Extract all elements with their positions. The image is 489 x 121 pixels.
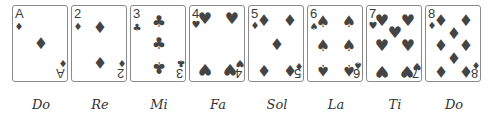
rank-bottom: 6	[353, 67, 360, 80]
spade-icon: ♠	[342, 14, 356, 30]
spade-icon: ♠	[316, 62, 330, 78]
club-icon: ♣	[133, 23, 142, 33]
rank-bottom: 7	[412, 67, 419, 80]
spade-icon: ♠	[342, 38, 356, 54]
spade-icon: ♠	[316, 38, 330, 54]
rank-top: 2	[74, 7, 81, 20]
card-ace-of-diamonds: A ♦ ♦ ♦ A	[12, 5, 68, 82]
card-three-of-clubs: 3 ♣ ♣ ♣ ♣ ♣ 3	[130, 5, 186, 82]
diamond-icon: ♦	[93, 54, 107, 70]
heart-icon: ♥	[401, 13, 415, 29]
diamond-icon: ♦	[34, 36, 48, 52]
diamond-icon: ♦	[283, 13, 297, 29]
rank-bottom: 5	[294, 67, 301, 80]
solfege-label: Fa	[189, 97, 247, 112]
solfege-label: Sol	[248, 97, 306, 112]
card-two-of-diamonds: 2 ♦ ♦ ♦ ♦ 2	[71, 5, 127, 82]
rank-bottom: 8	[471, 67, 478, 80]
card-eight-of-diamonds: 8 ♦ ♦ ♦ ♦ ♦ ♦ ♦ ♦ ♦ ♦ 8	[425, 5, 481, 82]
diamond-icon: ♦	[257, 62, 271, 78]
diamond-icon: ♦	[15, 22, 24, 32]
solfege-label: Do	[12, 97, 70, 112]
rank-top: A	[15, 7, 24, 20]
club-icon: ♣	[152, 36, 166, 52]
solfege-label: Do	[425, 97, 483, 112]
heart-icon: ♥	[225, 11, 239, 27]
club-icon: ♣	[152, 59, 166, 75]
diamond-icon: ♦	[93, 20, 107, 36]
heart-icon: ♥	[198, 11, 212, 27]
rank-top: 3	[133, 7, 140, 20]
diamond-icon: ♦	[434, 63, 448, 79]
heart-icon: ♥	[375, 38, 389, 54]
card-five-of-diamonds: 5 ♦ ♦ ♦ ♦ ♦ ♦ ♦ 5	[248, 5, 304, 82]
rank-bottom: 2	[117, 67, 124, 80]
card-six-of-spades: 6 ♠ ♠ ♠ ♠ ♠ ♠ ♠ ♠ 6	[307, 5, 363, 82]
rank-bottom: 3	[176, 67, 183, 80]
solfege-label: Mi	[130, 97, 188, 112]
club-icon: ♣	[152, 14, 166, 30]
diamond-icon: ♦	[74, 22, 83, 32]
solfege-label: Re	[71, 97, 129, 112]
rank-bottom: A	[56, 67, 65, 80]
diamond-icon: ♦	[270, 37, 284, 53]
diamond-icon: ♦	[257, 13, 271, 29]
card-seven-of-hearts: 7 ♥ ♥ ♥ ♥ ♥ ♥ ♥ ♥ ♥ 7	[366, 5, 422, 82]
card-four-of-hearts: 4 ♥ ♥ ♥ ♥ ♥ ♥ 4	[189, 5, 245, 82]
heart-icon: ♥	[198, 61, 212, 77]
heart-icon: ♥	[375, 63, 389, 79]
spade-icon: ♠	[316, 14, 330, 30]
heart-icon: ♥	[401, 38, 415, 54]
rank-bottom: 4	[235, 67, 242, 80]
solfege-label: Ti	[366, 97, 424, 112]
solfege-label: La	[307, 97, 365, 112]
